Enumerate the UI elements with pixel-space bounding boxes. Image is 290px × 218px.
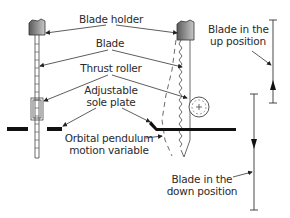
jigsaw-blade-diagram: Blade holder Blade Thrust roller Adjusta… — [0, 0, 290, 218]
label-orbital-line1: Orbital pendulum — [64, 132, 154, 144]
orbital-motion-outline — [162, 40, 176, 156]
left-sole-plate-right-bar — [47, 127, 62, 131]
label-blade-up-position: Blade in the up position — [208, 23, 268, 47]
label-blade-down-position: Blade in the down position — [166, 173, 238, 197]
label-sole-plate-line2: sole plate — [76, 96, 146, 108]
left-blade-assembly — [7, 19, 62, 158]
label-blade: Blade — [86, 37, 134, 49]
label-sole-plate: Adjustable sole plate — [76, 84, 146, 108]
label-down-line1: Blade in the — [166, 173, 238, 185]
right-blade-holder-shape — [177, 20, 194, 40]
left-sole-plate-left-bar — [7, 127, 28, 131]
down-position-indicator — [250, 94, 258, 210]
left-thrust-roller-shape — [31, 98, 43, 120]
left-blade-shape — [35, 35, 39, 158]
label-orbital-line2: motion variable — [64, 144, 154, 156]
up-position-indicator — [269, 20, 277, 103]
label-thrust-roller: Thrust roller — [76, 62, 146, 74]
thrust-roller-shape — [189, 97, 209, 117]
label-orbital-pendulum: Orbital pendulum motion variable — [64, 132, 154, 156]
label-blade-holder: Blade holder — [76, 13, 146, 25]
label-up-line1: Blade in the — [208, 23, 268, 35]
label-sole-plate-line1: Adjustable — [76, 84, 146, 96]
label-up-line2: up position — [208, 35, 268, 47]
label-down-line2: down position — [166, 185, 238, 197]
left-blade-holder-shape — [29, 19, 45, 35]
